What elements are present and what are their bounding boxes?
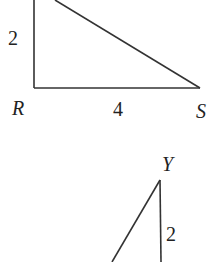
side-label-vertical-top: 2 [8, 27, 18, 49]
side-vertical-y [160, 180, 161, 262]
geometry-figure: 2 R 4 S Y 2 [0, 0, 209, 262]
triangle-y: Y 2 [112, 153, 176, 262]
vertex-label-y: Y [162, 153, 175, 175]
side-label-rs: 4 [113, 98, 123, 120]
vertex-label-r: R [11, 97, 24, 119]
triangle-rs: 2 R 4 S [8, 0, 206, 122]
hypotenuse-bottom [112, 180, 160, 262]
vertex-label-s: S [196, 100, 206, 122]
hypotenuse-top [55, 0, 200, 88]
side-label-vertical-bottom: 2 [166, 223, 176, 245]
